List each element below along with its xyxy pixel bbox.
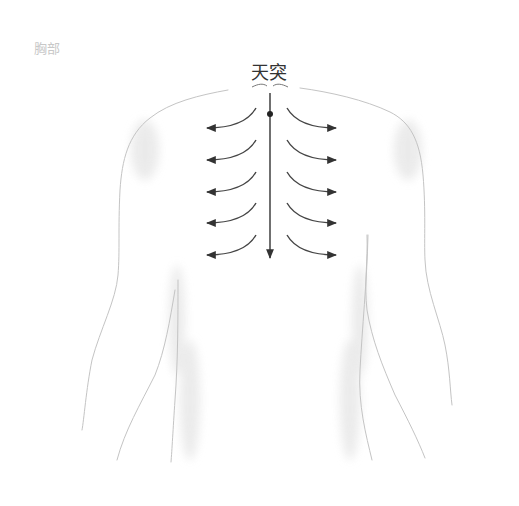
arrow-left-3	[207, 172, 256, 192]
left-arrows	[207, 108, 256, 255]
neck-notch	[252, 84, 288, 87]
arrow-left-5	[207, 235, 256, 255]
arrow-right-5	[287, 235, 336, 255]
arrow-right-1	[287, 108, 336, 128]
torso-diagram	[0, 0, 519, 506]
arrow-left-2	[207, 140, 256, 160]
arrow-right-2	[287, 140, 336, 160]
right-arrows	[287, 108, 336, 255]
acupoint-dot	[267, 111, 273, 117]
arrow-left-1	[207, 108, 256, 128]
arrow-left-4	[207, 203, 256, 223]
arrow-right-3	[287, 172, 336, 192]
arrow-right-4	[287, 203, 336, 223]
